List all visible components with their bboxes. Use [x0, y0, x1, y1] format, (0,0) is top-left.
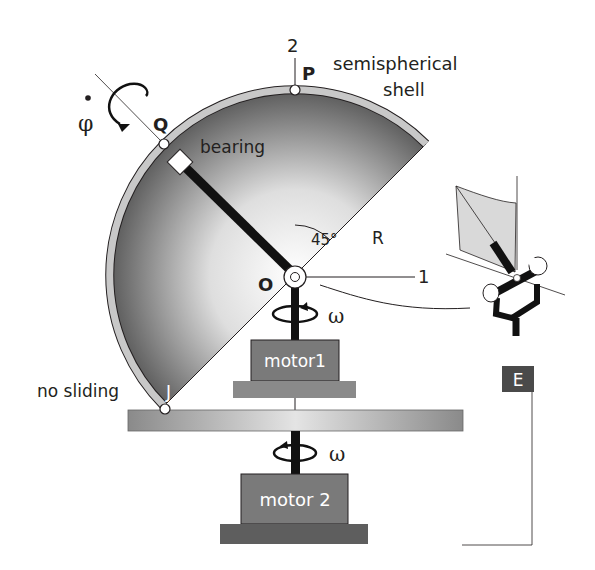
frame-e-label: E	[513, 370, 524, 390]
phi-dot-mark	[85, 95, 91, 101]
point-q	[159, 139, 169, 149]
diagram-canvas: ω motor1 ω motor 2 φ 2 P semispherical s…	[0, 0, 595, 570]
point-q-label: Q	[153, 114, 168, 135]
axis-2-label: 2	[287, 35, 298, 56]
radius-label: R	[372, 228, 384, 248]
rotation-arrow-omega-2	[274, 441, 316, 462]
omega-2-label: ω	[329, 442, 345, 466]
rotation-arrow-omega-1	[273, 302, 317, 323]
bearing-label: bearing	[200, 137, 265, 157]
angle-label: 45°	[311, 231, 338, 249]
omega-1-label: ω	[328, 304, 344, 328]
shell-label-line2: shell	[383, 79, 425, 100]
point-j-label: J	[165, 382, 171, 402]
motor2-base	[220, 524, 368, 544]
point-o-label: O	[258, 274, 273, 295]
point-j	[160, 404, 170, 414]
platform	[128, 410, 463, 431]
bearing-detail-inset	[446, 176, 565, 336]
axis-1-label: 1	[418, 266, 429, 287]
no-sliding-label: no sliding	[37, 381, 119, 401]
point-p	[290, 85, 300, 95]
motor1-label: motor1	[264, 351, 326, 371]
shell-label: semispherical	[333, 53, 458, 74]
motor2-label: motor 2	[259, 489, 330, 510]
phi-dot-label: φ	[78, 111, 93, 136]
point-p-label: P	[302, 63, 315, 84]
frame-e-bracket	[462, 392, 532, 545]
motor1-base	[233, 381, 356, 398]
